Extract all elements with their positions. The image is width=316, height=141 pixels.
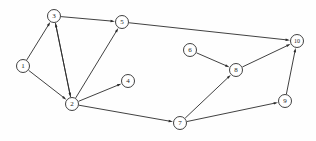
edge-7-to-9	[187, 103, 276, 122]
graph-node-7[interactable]: 7	[174, 117, 187, 130]
graph-svg: 12345678910	[0, 0, 316, 141]
edge-5-to-10	[129, 23, 287, 40]
edge-6-to-8	[197, 53, 228, 66]
node-label-9: 9	[283, 97, 287, 105]
graph-node-2[interactable]: 2	[66, 98, 79, 111]
edge-7-to-8	[185, 77, 229, 119]
node-label-6: 6	[188, 46, 192, 54]
graph-node-9[interactable]: 9	[279, 95, 292, 108]
edge-3-to-2	[55, 23, 70, 95]
node-label-8: 8	[234, 66, 238, 74]
edge-9-to-10	[286, 50, 295, 94]
graph-node-10[interactable]: 10	[291, 35, 304, 48]
arrowhead-5-to-10	[285, 39, 290, 41]
node-label-2: 2	[70, 100, 74, 108]
node-label-5: 5	[120, 18, 124, 26]
arrowhead-8-to-10	[286, 44, 291, 47]
edge-3-to-5	[61, 17, 112, 22]
edge-1-to-2	[29, 70, 65, 98]
node-label-7: 7	[178, 119, 182, 127]
arrowhead-3-to-5	[110, 20, 114, 22]
arrowhead-2-to-5	[115, 28, 118, 32]
graph-node-1[interactable]: 1	[17, 60, 30, 73]
arrowhead-2-to-4	[117, 84, 122, 87]
edge-2-to-7	[79, 105, 171, 121]
edge-1-to-3	[27, 24, 49, 60]
arrowhead-6-to-8	[225, 64, 230, 67]
graph-node-3[interactable]: 3	[48, 10, 61, 23]
node-label-1: 1	[21, 62, 25, 70]
edge-2-to-4	[79, 85, 120, 102]
arrowhead-1-to-3	[47, 22, 50, 26]
arrowhead-7-to-9	[273, 102, 278, 104]
node-label-4: 4	[126, 77, 130, 85]
edge-8-to-10	[242, 45, 288, 67]
graph-canvas: 12345678910	[0, 0, 316, 141]
arrowhead-3-to-2	[68, 92, 70, 97]
graph-node-6[interactable]: 6	[184, 44, 197, 57]
arrowhead-2-to-7	[168, 120, 173, 122]
graph-node-5[interactable]: 5	[116, 16, 129, 29]
node-label-10: 10	[294, 38, 300, 44]
node-label-3: 3	[52, 12, 56, 20]
arrowhead-9-to-10	[294, 48, 296, 53]
graph-node-8[interactable]: 8	[230, 64, 243, 77]
nodes-layer: 12345678910	[17, 10, 304, 130]
graph-node-4[interactable]: 4	[122, 75, 135, 88]
